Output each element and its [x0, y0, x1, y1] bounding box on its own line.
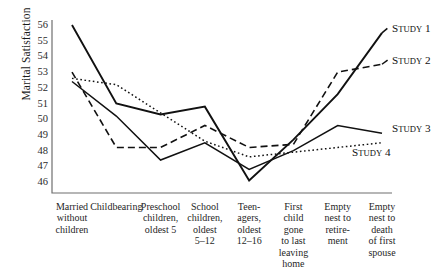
x-tick-line: children: [46, 224, 98, 235]
series-line-study-2: [72, 64, 382, 147]
x-tick-line: oldest: [226, 224, 272, 235]
chart-container: Marital Satisfaction 5655545352515049484…: [0, 0, 445, 280]
x-tick-line: gone: [271, 224, 315, 235]
x-tick-line: leaving: [271, 247, 315, 258]
x-tick-line: Empty: [359, 201, 405, 212]
series-label-study-4: STUDY 4: [352, 146, 391, 158]
x-tick-line: death: [359, 224, 405, 235]
x-tick-line: retire-: [315, 224, 361, 235]
series-label-connector-0: [382, 27, 389, 33]
x-tick-line: School: [179, 201, 231, 212]
series-line-study-3: [72, 82, 382, 170]
x-tick-5: Firstchildgoneto lastleavinghome: [271, 201, 315, 269]
x-tick-line: First: [271, 201, 315, 212]
x-tick-line: nest to: [359, 212, 405, 223]
x-tick-line: Empty: [315, 201, 361, 212]
x-tick-line: 5–12: [179, 235, 231, 246]
series-label-connector-1: [382, 59, 389, 64]
x-tick-line: ment: [315, 235, 361, 246]
x-tick-line: agers,: [226, 212, 272, 223]
x-tick-line: of first: [359, 235, 405, 246]
x-tick-line: 12–16: [226, 235, 272, 246]
series-line-study-1: [72, 25, 382, 180]
series-label-study-2: STUDY 2: [392, 54, 431, 66]
x-tick-line: Teen-: [226, 201, 272, 212]
x-tick-line: oldest: [179, 224, 231, 235]
series-label-study-1: STUDY 1: [392, 22, 431, 34]
x-tick-7: Emptynest todeathof firstspouse: [359, 201, 405, 258]
x-tick-line: spouse: [359, 247, 405, 258]
x-tick-line: to last: [271, 235, 315, 246]
x-tick-line: child: [271, 212, 315, 223]
x-tick-4: Teen-agers,oldest12–16: [226, 201, 272, 247]
x-tick-3: Schoolchildren,oldest5–12: [179, 201, 231, 247]
series-label-study-3: STUDY 3: [392, 122, 431, 134]
x-tick-6: Emptynest toretire-ment: [315, 201, 361, 247]
x-tick-line: home: [271, 258, 315, 269]
x-tick-line: children,: [179, 212, 231, 223]
x-tick-line: without: [46, 212, 98, 223]
x-tick-line: nest to: [315, 212, 361, 223]
